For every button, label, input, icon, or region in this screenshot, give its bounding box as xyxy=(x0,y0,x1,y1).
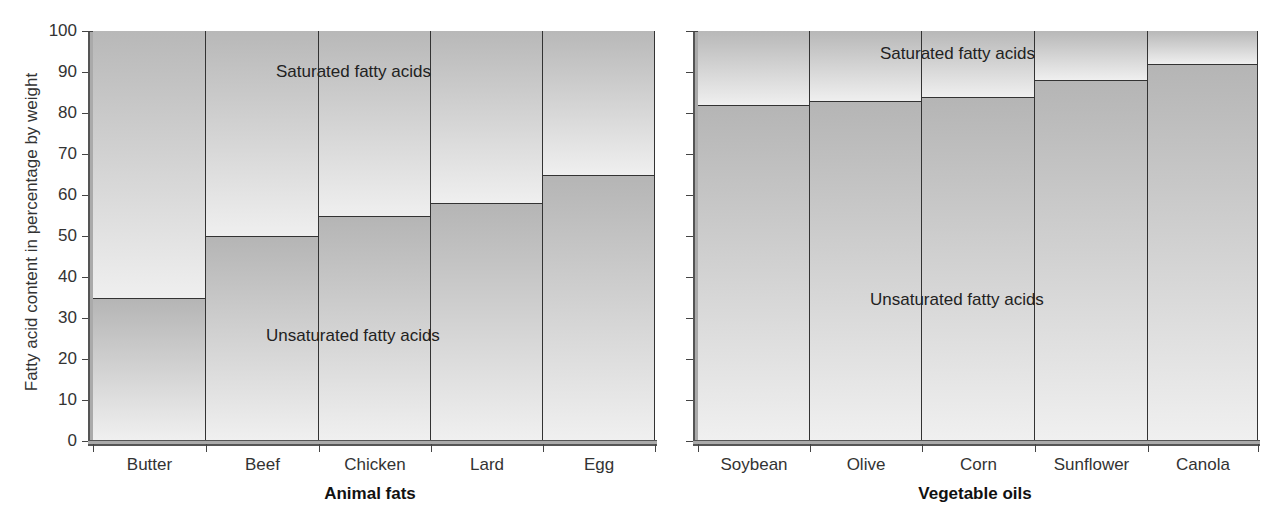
x-category-label: Chicken xyxy=(319,455,431,475)
bar-chicken xyxy=(319,31,431,441)
annotation-unsaturated-left: Unsaturated fatty acids xyxy=(262,324,444,348)
x-tick-mark xyxy=(1035,444,1036,452)
x-axis-line xyxy=(693,440,1260,446)
x-tick-mark xyxy=(698,444,699,452)
segment-unsaturated xyxy=(1148,64,1257,441)
segment-saturated xyxy=(1035,31,1147,80)
x-category-label: Soybean xyxy=(698,455,810,475)
x-category-label: Canola xyxy=(1148,455,1258,475)
x-tick-mark xyxy=(655,444,656,452)
x-category-label: Egg xyxy=(543,455,655,475)
x-tick-mark xyxy=(1258,444,1259,452)
annotation-unsaturated-right: Unsaturated fatty acids xyxy=(866,288,1048,312)
y-tick-label: 10 xyxy=(37,391,77,409)
x-tick-mark xyxy=(1148,444,1149,452)
bar-egg xyxy=(543,31,655,441)
y-tick-label: 50 xyxy=(37,227,77,245)
bar-lard xyxy=(431,31,543,441)
y-tick-label: 30 xyxy=(37,309,77,327)
bar-soybean xyxy=(698,31,810,441)
bar-corn xyxy=(922,31,1035,441)
y-tick-label: 60 xyxy=(37,186,77,204)
x-category-label: Butter xyxy=(93,455,206,475)
y-tick-label: 80 xyxy=(37,104,77,122)
annotation-saturated-right: Saturated fatty acids xyxy=(876,42,1039,66)
x-tick-mark xyxy=(93,444,94,452)
x-category-label: Lard xyxy=(431,455,543,475)
bar-olive xyxy=(810,31,922,441)
segment-unsaturated xyxy=(922,97,1034,441)
segment-saturated xyxy=(319,31,430,216)
x-axis-title-vegetable-oils: Vegetable oils xyxy=(875,484,1075,504)
x-tick-mark xyxy=(206,444,207,452)
segment-saturated xyxy=(93,31,205,298)
segment-unsaturated xyxy=(431,203,542,441)
bar-beef xyxy=(206,31,319,441)
x-category-label: Sunflower xyxy=(1035,455,1148,475)
x-tick-mark xyxy=(319,444,320,452)
y-tick-label: 40 xyxy=(37,268,77,286)
x-tick-mark xyxy=(543,444,544,452)
x-category-label: Corn xyxy=(922,455,1035,475)
bar-butter xyxy=(93,31,206,441)
y-tick-label: 70 xyxy=(37,145,77,163)
x-axis-line xyxy=(88,440,657,446)
y-tick-label: 90 xyxy=(37,63,77,81)
segment-unsaturated xyxy=(1035,80,1147,441)
x-tick-mark xyxy=(922,444,923,452)
y-tick-label: 20 xyxy=(37,350,77,368)
segment-unsaturated xyxy=(93,298,205,442)
x-tick-mark xyxy=(810,444,811,452)
x-axis-title-animal-fats: Animal fats xyxy=(270,484,470,504)
y-tick-label: 0 xyxy=(37,432,77,450)
segment-saturated xyxy=(698,31,809,105)
bar-sunflower xyxy=(1035,31,1148,441)
x-category-label: Olive xyxy=(810,455,922,475)
x-category-label: Beef xyxy=(206,455,319,475)
segment-unsaturated xyxy=(698,105,809,441)
bar-canola xyxy=(1148,31,1258,441)
segment-saturated xyxy=(431,31,542,203)
segment-unsaturated xyxy=(543,175,654,442)
segment-saturated xyxy=(1148,31,1257,64)
segment-unsaturated xyxy=(810,101,921,441)
x-tick-mark xyxy=(431,444,432,452)
segment-saturated xyxy=(543,31,654,175)
y-tick-label: 100 xyxy=(37,22,77,40)
annotation-saturated-left: Saturated fatty acids xyxy=(272,60,435,84)
